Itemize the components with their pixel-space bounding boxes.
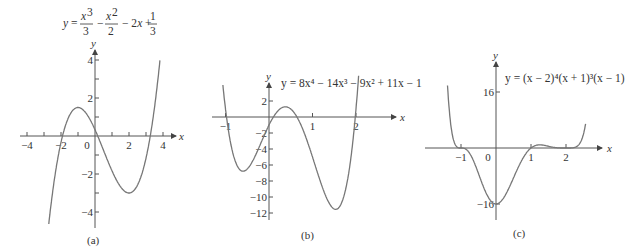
- curve-c: [448, 86, 586, 205]
- panel-c: y = (x − 2)⁴(x + 1)³(x − 1) x y −101216−…: [425, 49, 625, 240]
- svg-text:y =: y =: [62, 17, 77, 30]
- y-tick-label: 16: [483, 86, 495, 98]
- svg-text:3: 3: [150, 25, 156, 37]
- x-tick-label: −4: [21, 139, 33, 151]
- y-tick-label: −8: [255, 175, 267, 187]
- equation-c: y = (x − 2)⁴(x + 1)³(x − 1): [505, 72, 625, 85]
- svg-text:1: 1: [150, 10, 156, 22]
- caption-c: (c): [513, 227, 526, 240]
- svg-text:x: x: [105, 10, 112, 22]
- equation-b: y = 8x⁴ − 14x³ − 9x² + 11x − 1: [281, 77, 422, 90]
- y-tick-label: −4: [81, 206, 93, 218]
- y-tick-label: 4: [88, 54, 94, 66]
- x-axis-label-c: x: [606, 142, 612, 154]
- svg-text:2: 2: [108, 25, 114, 37]
- x-tick-label: 2: [563, 151, 569, 163]
- x-tick-label: −1: [220, 120, 232, 132]
- x-tick-label: 0: [84, 139, 90, 151]
- figure-canvas: y = x3 3 − x2 2 − 2x + 1 3 x y −4−202442…: [0, 0, 637, 252]
- svg-text:−: −: [97, 17, 104, 29]
- x-tick-label: 1: [528, 151, 534, 163]
- x-axis-label-a: x: [178, 130, 184, 142]
- y-axis-label-a: y: [90, 37, 96, 49]
- svg-text:3: 3: [87, 6, 93, 18]
- svg-text:2: 2: [112, 6, 118, 18]
- y-tick-label: −12: [250, 207, 267, 219]
- panel-b: y = 8x⁴ − 14x³ − 9x² + 11x − 1 x y −1122…: [212, 70, 422, 242]
- x-axis-label-b: x: [399, 111, 405, 123]
- x-tick-label: 2: [126, 139, 132, 151]
- y-tick-label: 2: [88, 92, 94, 104]
- y-tick-label: −16: [477, 198, 495, 210]
- y-axis-label-b: y: [265, 70, 271, 82]
- x-tick-label: 4: [160, 139, 166, 151]
- caption-a: (a): [87, 234, 100, 247]
- svg-text:x: x: [80, 10, 87, 22]
- panel-a: y = x3 3 − x2 2 − 2x + 1 3 x y −4−202442…: [20, 6, 184, 247]
- y-tick-label: 2: [262, 95, 268, 107]
- curve-b: [223, 76, 359, 210]
- ticks-b: −1122−2−4−6−8−10−12: [220, 95, 359, 219]
- x-tick-label: −1: [455, 151, 467, 163]
- y-tick-label: −10: [250, 191, 268, 203]
- y-axis-label-c: y: [492, 49, 498, 61]
- equation-a: y = x3 3 − x2 2 − 2x + 1 3: [62, 6, 157, 37]
- svg-text:− 2x +: − 2x +: [122, 17, 152, 29]
- y-tick-label: −2: [81, 168, 93, 180]
- x-tick-label: 0: [485, 151, 491, 163]
- svg-text:3: 3: [83, 25, 89, 37]
- x-tick-label: 1: [310, 120, 316, 132]
- caption-b: (b): [301, 229, 314, 242]
- y-tick-label: −6: [255, 159, 267, 171]
